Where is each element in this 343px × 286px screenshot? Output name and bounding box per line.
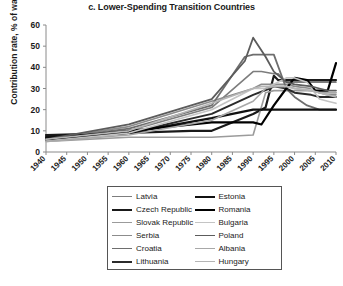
legend-label: Croatia: [136, 243, 162, 254]
svg-text:60: 60: [31, 20, 41, 30]
legend-item-slovak-republic[interactable]: Slovak Republic: [112, 216, 195, 229]
legend-swatch-icon: [195, 235, 215, 236]
svg-text:10: 10: [31, 126, 41, 136]
legend-swatch-icon: [195, 222, 215, 223]
plot-area: 0102030405060 19401945195019551960196519…: [0, 0, 343, 186]
legend-item-czech-republic[interactable]: Czech Republic: [112, 203, 195, 216]
legend-item-lithuania[interactable]: Lithuania: [112, 255, 195, 268]
legend-swatch-icon: [112, 222, 132, 223]
svg-text:20: 20: [31, 105, 41, 115]
svg-text:1940: 1940: [28, 154, 47, 173]
legend-swatch-icon: [195, 196, 215, 198]
chart-figure: c. Lower-Spending Transition Countries C…: [0, 0, 343, 286]
svg-text:1990: 1990: [236, 154, 255, 173]
legend-label: Romania: [219, 204, 251, 215]
svg-text:1975: 1975: [173, 154, 192, 173]
svg-text:1945: 1945: [49, 154, 68, 173]
legend-item-albania[interactable]: Albania: [195, 242, 278, 255]
legend-label: Czech Republic: [136, 204, 192, 215]
svg-text:1995: 1995: [256, 154, 275, 173]
legend-swatch-icon: [112, 235, 132, 236]
legend-swatch-icon: [112, 261, 132, 263]
legend-item-croatia[interactable]: Croatia: [112, 242, 195, 255]
legend-item-latvia[interactable]: Latvia: [112, 190, 195, 203]
legend-item-poland[interactable]: Poland: [195, 229, 278, 242]
legend-label: Latvia: [136, 191, 157, 202]
legend-item-serbia[interactable]: Serbia: [112, 229, 195, 242]
svg-text:50: 50: [31, 41, 41, 51]
legend-label: Lithuania: [136, 256, 168, 267]
svg-text:2000: 2000: [277, 154, 296, 173]
svg-text:1985: 1985: [215, 154, 234, 173]
legend-item-hungary[interactable]: Hungary: [195, 255, 278, 268]
legend-swatch-icon: [112, 248, 132, 249]
series-line-croatia: [46, 55, 336, 140]
svg-text:2010: 2010: [318, 154, 337, 173]
svg-text:1955: 1955: [91, 154, 110, 173]
svg-text:40: 40: [31, 62, 41, 72]
series-line-romania: [46, 63, 336, 139]
svg-text:2005: 2005: [298, 154, 317, 173]
legend-label: Albania: [219, 243, 246, 254]
svg-text:30: 30: [31, 84, 41, 94]
legend-swatch-icon: [195, 248, 215, 249]
legend-label: Serbia: [136, 230, 159, 241]
legend-label: Poland: [219, 230, 244, 241]
svg-text:1980: 1980: [194, 154, 213, 173]
legend-label: Bulgaria: [219, 217, 248, 228]
legend-label: Slovak Republic: [136, 217, 193, 228]
legend-swatch-icon: [195, 209, 215, 211]
series-lines: [46, 38, 336, 142]
legend-item-bulgaria[interactable]: Bulgaria: [195, 216, 278, 229]
legend-swatch-icon: [112, 196, 132, 197]
svg-text:1950: 1950: [70, 154, 89, 173]
chart-legend: LatviaEstoniaCzech RepublicRomaniaSlovak…: [107, 186, 282, 270]
legend-label: Hungary: [219, 256, 249, 267]
svg-text:1965: 1965: [132, 154, 151, 173]
svg-text:1960: 1960: [111, 154, 130, 173]
legend-item-romania[interactable]: Romania: [195, 203, 278, 216]
y-axis-ticks: 0102030405060: [31, 20, 46, 157]
legend-grid: LatviaEstoniaCzech RepublicRomaniaSlovak…: [108, 187, 281, 269]
legend-item-estonia[interactable]: Estonia: [195, 190, 278, 203]
legend-label: Estonia: [219, 191, 246, 202]
x-axis-tick-labels: 1940194519501955196019651970197519801985…: [28, 154, 337, 173]
legend-swatch-icon: [195, 261, 215, 262]
svg-text:1970: 1970: [153, 154, 172, 173]
legend-swatch-icon: [112, 209, 132, 211]
